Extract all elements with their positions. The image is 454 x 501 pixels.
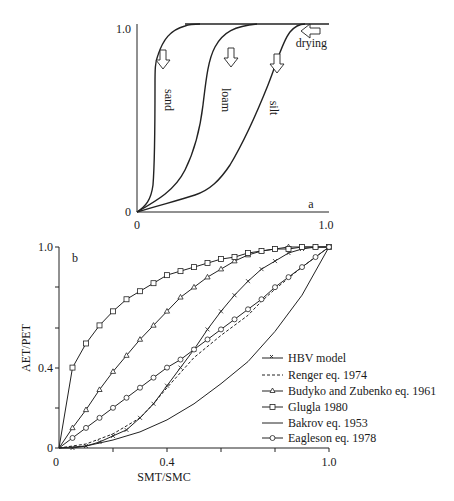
x-marker-icon [206,327,210,331]
circle-marker-icon [246,307,251,312]
legend-item-bakrov: Bakrov eq. 1953 [262,416,368,430]
x-axis-title: SMT/SMC [137,470,190,484]
x-tick-label-04: 0.4 [160,455,175,469]
circle-marker-icon [178,357,183,362]
square-marker-icon [124,297,129,302]
triangle-marker-icon [270,388,275,393]
circle-marker-icon [70,435,75,440]
square-marker-icon [70,365,75,370]
down-arrow-icon [224,48,238,67]
circle-marker-icon [286,275,291,280]
sand-label: sand [162,89,176,111]
circle-marker-icon [192,347,197,352]
square-marker-icon [246,251,251,256]
x-marker-icon [246,279,250,283]
circle-marker-icon [313,255,318,260]
square-marker-icon [151,281,156,286]
panel-a-y-zero-label: 0 [125,205,131,219]
square-marker-icon [300,245,305,250]
square-marker-icon [111,309,116,314]
circle-marker-icon [84,425,89,430]
y-axis-title: AET/PET [19,323,33,372]
circle-marker-icon [219,327,224,332]
square-marker-icon [313,245,318,250]
square-marker-icon [270,405,275,410]
panel-b-label: b [72,251,78,265]
x-tick-label-1: 1.0 [322,455,337,469]
panel-a-label: a [308,197,314,211]
loam-label: loam [219,88,233,113]
circle-marker-icon [138,385,143,390]
x-marker-icon [260,267,264,271]
panel-a-x-zero-label: 0 [134,218,140,232]
x-marker-icon [111,434,115,438]
x-marker-icon [233,293,237,297]
circle-marker-icon [111,405,116,410]
panel-a-y-top-label: 1.0 [116,22,131,36]
circle-marker-icon [151,375,156,380]
svg-text:Eagleson eq. 1978: Eagleson eq. 1978 [288,431,376,445]
circle-marker-icon [259,297,264,302]
svg-text:Glugla 1980: Glugla 1980 [288,400,348,414]
svg-text:Bakrov eq. 1953: Bakrov eq. 1953 [288,416,368,430]
panel-b-y-ticks [55,247,59,448]
legend-item-renger: Renger eq. 1974 [262,368,367,382]
circle-marker-icon [327,245,332,250]
y-tick-label-1: 1.0 [38,240,53,254]
x-marker-icon [179,366,183,370]
square-marker-icon [178,269,183,274]
square-marker-icon [273,247,278,252]
panel-a: 1.0 0 0 1.0 a sand loam silt drying [116,22,334,232]
sand-curve [137,24,200,212]
circle-marker-icon [300,265,305,270]
svg-text:Renger eq. 1974: Renger eq. 1974 [288,368,367,382]
square-marker-icon [219,257,224,262]
square-marker-icon [259,249,264,254]
legend-item-glugla: Glugla 1980 [262,400,348,414]
y-tick-label-0: 0 [47,441,53,455]
x-marker-icon [125,428,129,432]
legend: HBV model Renger eq. 1974 Budyko and Zub… [262,351,436,445]
silt-label: silt [267,101,281,116]
circle-marker-icon [205,337,210,342]
figure: 1.0 0 0 1.0 a sand loam silt drying [0,0,454,501]
panel-b-x-ticks [113,448,329,452]
square-marker-icon [232,255,237,260]
legend-item-budyko: Budyko and Zubenko eq. 1961 [262,384,436,398]
legend-item-eagleson: Eagleson eq. 1978 [262,431,376,445]
panel-b: 1.0 0.4 0 0 0.4 1.0 SMT/SMC AET/PET b HB… [19,240,436,484]
panel-a-x-end-label: 1.0 [319,218,334,232]
triangle-marker-icon [178,294,183,299]
triangle-marker-icon [218,266,223,271]
square-marker-icon [165,273,170,278]
circle-marker-icon [165,365,170,370]
square-marker-icon [192,265,197,270]
legend-item-hbv: HBV model [262,351,347,365]
circle-marker-icon [232,317,237,322]
circle-marker-icon [124,395,129,400]
square-marker-icon [205,261,210,266]
y-tick-label-04: 0.4 [38,361,53,375]
svg-text:HBV model: HBV model [288,351,347,365]
circle-marker-icon [270,436,275,441]
circle-marker-icon [97,415,102,420]
triangle-marker-icon [191,284,196,289]
circle-marker-icon [273,285,278,290]
drying-annotation: drying [296,36,327,50]
x-marker-icon [219,309,223,313]
x-tick-label-0: 0 [53,455,59,469]
square-marker-icon [84,341,89,346]
square-marker-icon [138,289,143,294]
square-marker-icon [97,323,102,328]
svg-text:Budyko and Zubenko eq. 1961: Budyko and Zubenko eq. 1961 [288,384,436,398]
triangle-marker-icon [205,274,210,279]
down-arrow-icon [270,54,284,73]
square-marker-icon [286,247,291,252]
x-marker-icon [273,259,277,263]
